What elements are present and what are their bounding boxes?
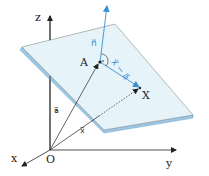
- origin-label: O: [46, 153, 55, 166]
- plane: [20, 24, 193, 133]
- point-x-label: X: [142, 89, 150, 102]
- normal-vector-label: n⃗: [91, 38, 97, 48]
- y-axis-label: y: [165, 157, 173, 170]
- point-a-label: A: [79, 56, 89, 69]
- vector-x-label: x⃗: [80, 126, 85, 135]
- vector-a-label: a⃗: [54, 106, 59, 115]
- x-axis-label: x: [11, 152, 18, 165]
- z-axis-label: z: [35, 11, 41, 24]
- vector-x-solid: [50, 116, 99, 150]
- point-x: [139, 87, 141, 89]
- right-angle-dot: [102, 60, 104, 62]
- plane-vector-diagram: z y x O A X n⃗ a⃗ x⃗ x⃗ − a⃗: [0, 0, 209, 176]
- point-a: [98, 60, 101, 63]
